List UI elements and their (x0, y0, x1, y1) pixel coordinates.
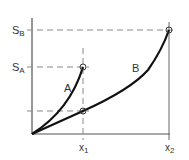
label-x1: x1 (79, 142, 89, 155)
curve-a (32, 67, 83, 134)
curve-label-a: A (64, 82, 72, 94)
label-sa: SA (12, 61, 25, 75)
label-x2: x2 (165, 142, 175, 155)
label-sb: SB (12, 24, 25, 38)
diagram-canvas: SB SA x1 x2 A B (0, 0, 189, 160)
curve-label-b: B (132, 62, 139, 74)
